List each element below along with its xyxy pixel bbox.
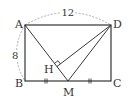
label-d: D bbox=[113, 18, 122, 31]
measure-ad: 12 bbox=[62, 7, 75, 18]
rectangle-abcd bbox=[25, 25, 111, 81]
label-m: M bbox=[63, 86, 74, 99]
label-c: C bbox=[113, 77, 121, 90]
figure-svg: A B C D M H 12 8 bbox=[0, 0, 130, 100]
geometry-figure: A B C D M H 12 8 bbox=[0, 0, 130, 100]
right-angle-mark bbox=[55, 61, 61, 64]
measure-ab: 8 bbox=[12, 50, 18, 61]
label-a: A bbox=[14, 18, 24, 31]
label-b: B bbox=[15, 77, 23, 90]
label-h: H bbox=[44, 63, 54, 76]
